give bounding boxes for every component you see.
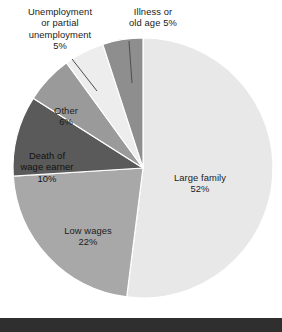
slice-label-large-family: Large family 52% <box>158 172 242 195</box>
pie-chart-figure: Unemployment or partial unemployment 5% … <box>0 0 282 332</box>
slice-label-other: Other 6% <box>37 105 95 128</box>
slice-label-low-wages: Low wages 22% <box>45 225 131 248</box>
pie-slice-large-family[interactable] <box>127 38 273 298</box>
slice-label-death-of-wage-earner: Death of wage earner 10% <box>6 150 88 184</box>
footer-band <box>0 318 282 332</box>
slice-label-unemployment: Unemployment or partial unemployment 5% <box>6 6 114 52</box>
slice-label-illness-or-old-age: Illness or old age 5% <box>110 6 196 29</box>
